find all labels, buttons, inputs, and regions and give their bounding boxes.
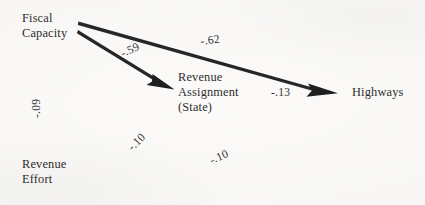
node-revenue-effort-line1: Revenue [22,157,66,172]
node-revenue-effort: Revenue Effort [22,157,66,187]
node-fiscal-capacity-line1: Fiscal [22,11,67,26]
node-revenue-assignment-line2: Assignment [178,85,239,100]
node-revenue-assignment-line3: (State) [178,100,239,115]
arrow-fiscal-to-revenue-assignment [77,30,175,90]
node-highways: Highways [352,85,403,100]
node-highways-line1: Highways [352,85,403,100]
node-fiscal-capacity-line2: Capacity [22,26,67,41]
path-diagram-canvas: Fiscal Capacity Revenue Assignment (Stat… [0,0,425,205]
coefficient-revenue-assignment-to-highways: -.13 [271,87,290,99]
node-revenue-assignment-line1: Revenue [178,70,239,85]
node-fiscal-capacity: Fiscal Capacity [22,11,67,41]
coefficient-fiscal-to-revenue-effort: -.09 [31,99,43,118]
coefficient-fiscal-to-highways: -.62 [200,34,220,48]
node-revenue-assignment: Revenue Assignment (State) [178,70,239,116]
node-revenue-effort-line2: Effort [22,172,66,187]
